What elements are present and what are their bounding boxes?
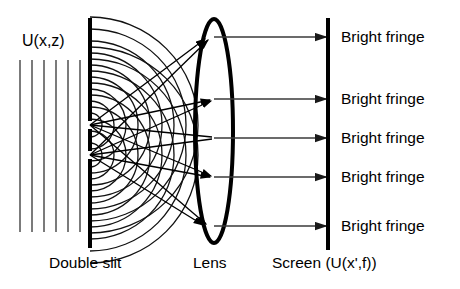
ray-slit-top-to-lens-4	[90, 125, 211, 176]
fringe-label-4: Bright fringe	[341, 169, 425, 185]
circular-wavefronts	[0, 17, 198, 263]
fringe-label-5: Bright fringe	[341, 218, 425, 234]
fringe-label-2: Bright fringe	[341, 91, 425, 107]
converging-lens	[195, 19, 233, 243]
screen-caption: Screen (U(x',f))	[272, 255, 377, 271]
double-slit-caption: Double slit	[49, 255, 121, 271]
input-field-label: U(x,z)	[22, 33, 65, 49]
plane-wavefronts	[20, 60, 80, 232]
lens-caption: Lens	[193, 255, 227, 271]
fringe-label-1: Bright fringe	[341, 29, 425, 45]
fringe-label-3: Bright fringe	[341, 130, 425, 146]
optics-diagram: U(x,z) Bright fringe Bright fringe Brigh…	[0, 0, 460, 289]
